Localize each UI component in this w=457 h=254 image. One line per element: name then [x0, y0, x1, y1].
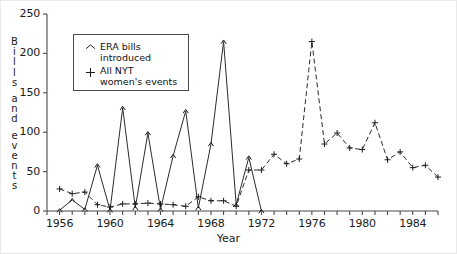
legend-label-line1: ERA bills: [100, 42, 151, 53]
x-tick-label: 1972: [235, 217, 287, 230]
data-point-marker: [120, 201, 126, 207]
x-tick-label: 1980: [336, 217, 388, 230]
data-point-marker: [372, 120, 378, 126]
data-point-marker: [196, 206, 201, 210]
legend-label-line2: women's events: [100, 77, 177, 88]
data-point-marker: [221, 198, 227, 204]
data-point-marker: [385, 157, 391, 163]
data-point-marker: [208, 198, 214, 204]
data-point-marker: [296, 156, 302, 162]
data-point-marker: [170, 202, 176, 208]
data-point-marker: [107, 204, 113, 210]
legend-label-line2: introduced: [100, 53, 151, 64]
data-point-marker: [69, 191, 75, 197]
y-tick-label: 100: [1, 125, 40, 138]
y-axis-label-char: s: [12, 181, 17, 191]
chart-figure: Billsandevents Year ERA bills introduced…: [0, 0, 457, 254]
data-point-marker: [132, 201, 138, 207]
y-tick-label: 150: [1, 86, 40, 99]
x-tick-label: 1964: [135, 217, 187, 230]
plus-marker-icon: [83, 66, 97, 78]
data-point-marker: [397, 149, 403, 155]
data-point-marker: [422, 162, 428, 168]
chart-legend: ERA bills introduced All NYT women's eve…: [73, 34, 189, 91]
data-point-marker: [145, 200, 151, 206]
data-point-marker: [233, 203, 239, 209]
x-tick-label: 1956: [34, 217, 86, 230]
legend-entry-era-bills: ERA bills introduced: [83, 42, 151, 63]
data-point-marker: [57, 186, 63, 192]
legend-label-era-bills: ERA bills introduced: [100, 42, 151, 63]
data-point-marker: [309, 39, 315, 45]
y-tick-label: 250: [1, 7, 40, 20]
legend-label-nyt-events: All NYT women's events: [100, 66, 177, 87]
legend-entry-nyt-events: All NYT women's events: [83, 66, 177, 87]
x-tick-label: 1960: [84, 217, 136, 230]
y-tick-label: 50: [1, 165, 40, 178]
data-point-marker: [347, 145, 353, 151]
x-tick-label: 1984: [387, 217, 439, 230]
data-point-marker: [359, 147, 365, 153]
x-tick-label: 1976: [286, 217, 338, 230]
data-point-marker: [82, 189, 88, 195]
y-tick-label: 200: [1, 46, 40, 59]
x-tick-label: 1968: [185, 217, 237, 230]
y-axis-label-char: d: [11, 114, 17, 124]
triangle-marker-icon: [83, 42, 97, 52]
x-axis-label: Year: [1, 232, 456, 245]
y-tick-label: 0: [1, 204, 40, 217]
legend-label-line1: All NYT: [100, 66, 177, 77]
